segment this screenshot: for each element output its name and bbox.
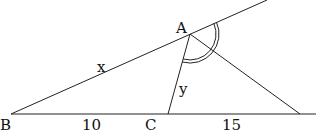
segment-label-y: y (178, 80, 188, 98)
segment-label-x: x (97, 58, 106, 76)
geometry-diagram: A B C x y 10 15 (0, 0, 317, 131)
segment-ac (168, 34, 190, 114)
point-label-c: C (145, 116, 156, 131)
diagram-canvas: A B C x y 10 15 (0, 0, 317, 131)
segment-ad (190, 34, 300, 114)
segment-label-bc: 10 (82, 116, 101, 131)
line-ba-extended (11, 0, 267, 114)
point-label-a: A (175, 19, 187, 37)
segment-label-cd: 15 (222, 116, 241, 131)
point-label-b: B (0, 116, 11, 131)
